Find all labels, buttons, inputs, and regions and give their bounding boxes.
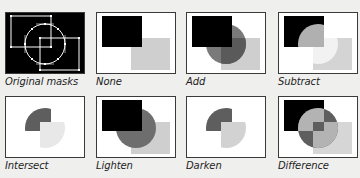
panel-label: Original masks: [5, 76, 78, 87]
panel-label: Darken: [186, 160, 222, 171]
difference-result-illustration: [279, 97, 357, 157]
mask-paths-illustration: [6, 13, 84, 73]
panel-label: Intersect: [5, 160, 48, 171]
panel-label: Difference: [278, 160, 329, 171]
intersect-frame: [5, 96, 85, 158]
add-result-illustration: [187, 13, 265, 73]
darken-frame: [186, 96, 266, 158]
panel-label: None: [96, 76, 122, 87]
darken-result-illustration: [187, 97, 265, 157]
lighten-result-illustration: [97, 97, 175, 157]
none-result-illustration: [97, 13, 175, 73]
original-masks-frame: [5, 12, 85, 74]
subtract-result-illustration: [279, 13, 357, 73]
add-frame: [186, 12, 266, 74]
lighten-frame: [96, 96, 176, 158]
none-frame: [96, 12, 176, 74]
subtract-frame: [278, 12, 358, 74]
panel-label: Add: [186, 76, 205, 87]
intersect-result-illustration: [6, 97, 84, 157]
panel-label: Subtract: [278, 76, 320, 87]
difference-frame: [278, 96, 358, 158]
panel-label: Lighten: [96, 160, 133, 171]
